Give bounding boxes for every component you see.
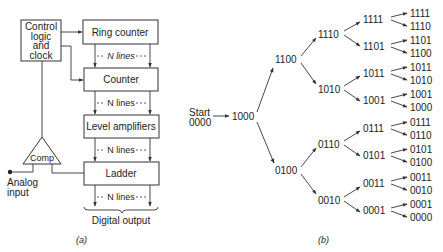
node-l5-14: 0001 [410, 199, 433, 210]
caption-b: (b) [318, 235, 329, 245]
node-l5-13: 0010 [410, 185, 433, 196]
n-lines-label-2: N lines [107, 98, 135, 108]
node-l4-0: 1111 [363, 14, 383, 25]
edge-l3-2-up [344, 131, 360, 141]
control-to-counter-arrow [61, 46, 83, 80]
node-l3-1: 1010 [318, 84, 341, 95]
node-l5-15: 0000 [410, 212, 433, 223]
comp-label: Comp [30, 153, 54, 163]
node-l2-0: 1100 [275, 54, 297, 65]
node-l5-8: 0111 [410, 117, 431, 128]
node-l3-3: 0010 [318, 195, 341, 206]
analog-input-terminal [8, 170, 12, 174]
node-l4-7: 0001 [363, 205, 386, 216]
counter-label: Counter [103, 74, 139, 85]
node-l4-1: 1101 [363, 41, 385, 52]
n-lines-label-3: N lines [107, 145, 135, 155]
ladder-to-comp-line [52, 164, 84, 173]
node-l5-9: 0110 [410, 130, 432, 141]
edge-l3-0-up [344, 22, 360, 31]
node-l5-10: 0101 [410, 144, 433, 155]
node-l5-11: 0100 [410, 157, 433, 168]
edge-l3-3-up [344, 187, 360, 197]
block-diagram-a: Control logic and clock Ring counter Cou… [7, 20, 159, 245]
edge-l2b-down [301, 174, 316, 194]
edge-l3-1-up [344, 76, 360, 86]
node-l3-2: 0110 [318, 139, 340, 150]
node-l5-5: 1010 [410, 75, 433, 86]
node-1000: 1000 [232, 111, 255, 122]
node-l4-3: 1001 [363, 95, 386, 106]
n-lines-label-1: N lines [107, 51, 135, 61]
node-l4-4: 0111 [363, 123, 384, 134]
node-l5-12: 0011 [410, 172, 432, 183]
edge-l3-0-down [344, 35, 360, 46]
edge-l2a-down [301, 63, 316, 84]
control-label-4: clock [30, 50, 54, 61]
start-value: 0000 [189, 117, 212, 128]
sar-tree-b: Start 0000 1000 1100 0100 1110 1010 0110… [189, 8, 433, 245]
node-l5-7: 1000 [410, 102, 433, 113]
edge-l3-3-down [344, 201, 360, 212]
node-l4-6: 0011 [363, 178, 385, 189]
node-l5-3: 1100 [410, 48, 432, 59]
node-l3-0: 1110 [318, 29, 339, 40]
output-brace [84, 207, 158, 213]
edge-l2a-up [301, 38, 316, 56]
diagram-canvas: Control logic and clock Ring counter Cou… [0, 0, 443, 252]
edge-l1-down [257, 122, 274, 163]
ladder-label: Ladder [105, 168, 137, 179]
node-l5-0: 1111 [410, 8, 430, 19]
n-lines-label-4: N lines [107, 192, 135, 202]
caption-a: (a) [76, 235, 87, 245]
l4-to-l5-edges [391, 13, 407, 217]
analog-input-line [11, 164, 33, 172]
edge-l2b-up [301, 148, 316, 167]
node-l5-4: 1011 [410, 62, 432, 73]
ring-counter-label: Ring counter [92, 27, 149, 38]
node-l5-6: 1001 [410, 89, 433, 100]
node-l5-1: 1110 [410, 21, 431, 32]
digital-output-label: Digital output [92, 215, 151, 226]
edge-l1-up [257, 68, 273, 112]
edge-l3-1-down [344, 90, 360, 101]
node-l4-2: 1011 [363, 68, 385, 79]
node-l4-5: 0101 [363, 150, 386, 161]
analog-input-label-2: input [7, 187, 29, 198]
node-l2-1: 0100 [275, 165, 298, 176]
level-amplifiers-label: Level amplifiers [86, 121, 155, 132]
edge-l3-2-down [344, 145, 360, 156]
node-l5-2: 1101 [410, 35, 432, 46]
